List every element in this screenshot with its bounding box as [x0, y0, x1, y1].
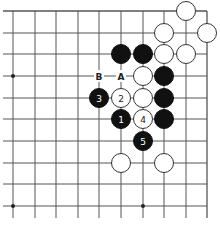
- go-board: BA 32145: [0, 0, 220, 225]
- white-stone: 4: [134, 110, 153, 129]
- white-stone-icon: [198, 24, 217, 43]
- white-stone: [155, 24, 174, 43]
- white-stone-icon: [177, 2, 196, 21]
- move-number: 4: [140, 115, 146, 125]
- white-stone-icon: [112, 154, 131, 173]
- white-stone: [198, 24, 217, 43]
- white-stone-icon: [134, 89, 153, 108]
- white-stone: [177, 2, 196, 21]
- white-stone-icon: [134, 67, 153, 86]
- black-stone: 5: [134, 132, 153, 151]
- white-stone: 2: [112, 89, 131, 108]
- black-stone-icon: [155, 110, 174, 129]
- black-stone: [155, 89, 174, 108]
- white-stone: [134, 67, 153, 86]
- black-stone-icon: [155, 67, 174, 86]
- star-point: [11, 74, 15, 78]
- white-stone: [177, 45, 196, 64]
- white-stone-icon: [155, 154, 174, 173]
- move-number: 1: [118, 115, 124, 125]
- white-stone: [155, 45, 174, 64]
- black-stone: [155, 67, 174, 86]
- stones: 32145: [90, 2, 217, 173]
- black-stone-icon: [134, 45, 153, 64]
- white-stone: [134, 89, 153, 108]
- star-point: [141, 204, 145, 208]
- white-stone: [155, 154, 174, 173]
- star-point: [11, 204, 15, 208]
- white-stone: [112, 154, 131, 173]
- move-number: 3: [96, 94, 102, 104]
- white-stone-icon: [155, 24, 174, 43]
- black-stone: 3: [90, 89, 109, 108]
- move-number: 5: [140, 137, 146, 147]
- black-stone: [155, 110, 174, 129]
- point-label-a: A: [118, 72, 125, 82]
- move-number: 2: [118, 94, 124, 104]
- white-stone-icon: [155, 45, 174, 64]
- black-stone-icon: [155, 89, 174, 108]
- black-stone: [134, 45, 153, 64]
- point-label-b: B: [96, 72, 103, 82]
- black-stone: [112, 45, 131, 64]
- black-stone: 1: [112, 110, 131, 129]
- grid-lines: [3, 11, 207, 218]
- black-stone-icon: [112, 45, 131, 64]
- white-stone-icon: [177, 45, 196, 64]
